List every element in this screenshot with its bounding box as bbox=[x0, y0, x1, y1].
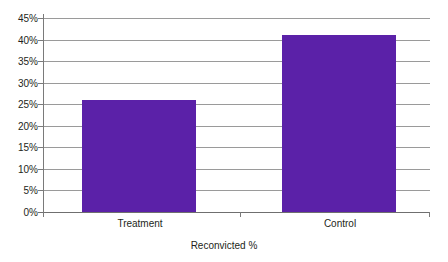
y-axis-labels: 45% 40% 35% 30% 25% 20% 15% 10% 5% 0% bbox=[0, 0, 43, 262]
x-axis-tick bbox=[240, 212, 241, 217]
x-tick-label-treatment: Treatment bbox=[82, 218, 198, 229]
bar-chart: 45% 40% 35% 30% 25% 20% 15% 10% 5% 0% bbox=[0, 0, 448, 262]
x-tick-label-control: Control bbox=[282, 218, 398, 229]
x-axis-tick-end bbox=[429, 212, 430, 217]
x-axis-tick-start bbox=[43, 212, 44, 217]
x-axis-title: Reconvicted % bbox=[0, 240, 448, 251]
plot-area bbox=[43, 18, 430, 212]
y-axis-line bbox=[43, 14, 44, 216]
gridline bbox=[43, 18, 430, 19]
bar-treatment bbox=[82, 100, 196, 212]
bar-control bbox=[282, 35, 396, 212]
x-axis-line bbox=[38, 212, 430, 213]
